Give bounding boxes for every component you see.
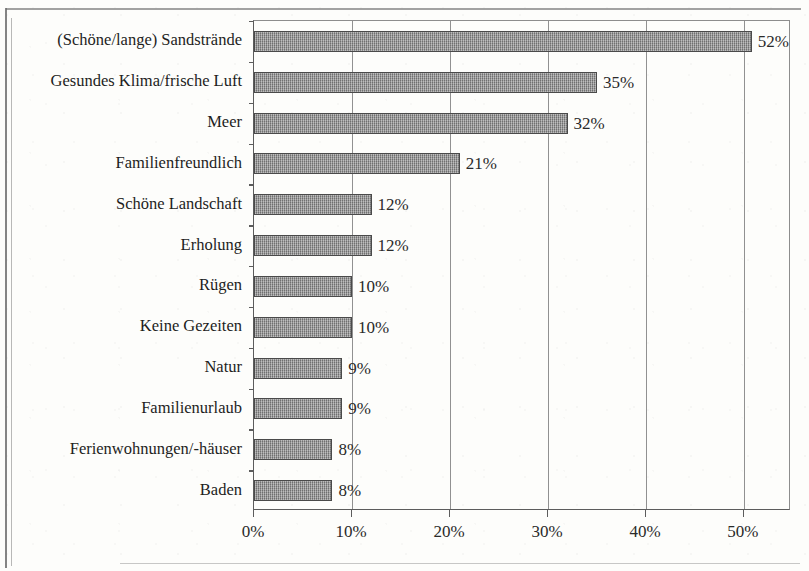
bar-series: 52%35%32%21%12%12%10%10%9%9%8%8% [254,21,789,509]
bar-row: 12% [254,193,789,217]
bar-row: 10% [254,315,789,339]
bar-value-label: 8% [338,441,361,458]
category-tick [249,389,254,390]
category-label: Schöne Landschaft [116,196,242,213]
bar-value-label: 52% [758,33,789,50]
category-label: Rügen [199,277,242,294]
x-tick-40% [645,510,646,517]
category-label: Familienurlaub [141,400,242,417]
bar-row: 8% [254,479,789,503]
bar-value-label: 21% [466,155,497,172]
bar-row: 52% [254,29,789,53]
bar[interactable] [254,439,332,460]
category-tick [249,144,254,145]
bar-row: 9% [254,397,789,421]
x-tick-label-10%: 10% [335,523,366,540]
bar[interactable] [254,194,372,215]
bar-value-label: 32% [574,115,605,132]
category-label: Familienfreundlich [116,155,242,172]
x-tick-20% [449,510,450,517]
category-axis-labels: (Schöne/lange) SandsträndeGesundes Klima… [0,20,248,510]
bar-row: 35% [254,70,789,94]
category-label: Ferienwohnungen/-häuser [70,441,242,458]
bar-row: 12% [254,234,789,258]
bar-row: 9% [254,356,789,380]
bar[interactable] [254,72,597,93]
bar[interactable] [254,153,460,174]
category-label: Natur [204,359,242,376]
category-tick [249,62,254,63]
bar[interactable] [254,31,752,52]
bar-value-label: 35% [603,74,634,91]
category-tick [249,266,254,267]
category-tick [249,470,254,471]
bar-value-label: 10% [358,319,389,336]
bar-value-label: 9% [348,400,371,417]
bar-row: 10% [254,274,789,298]
category-label: Erholung [181,236,242,253]
category-label: Baden [200,481,242,498]
bar-row: 8% [254,438,789,462]
bar[interactable] [254,480,332,501]
x-tick-label-50%: 50% [727,523,758,540]
x-tick-label-20%: 20% [433,523,464,540]
category-tick [249,103,254,104]
x-tick-50% [743,510,744,517]
bar[interactable] [254,113,568,134]
bar[interactable] [254,317,352,338]
category-tick [249,21,254,22]
bar-value-label: 9% [348,360,371,377]
x-axis-tick-labels: 0%10%20%30%40%50% [253,523,809,549]
category-tick [249,184,254,185]
x-tick-30% [547,510,548,517]
bar[interactable] [254,358,342,379]
category-label: Meer [207,114,242,131]
x-tick-10% [351,510,352,517]
bar-value-label: 12% [378,237,409,254]
x-tick-label-40%: 40% [629,523,660,540]
bar-row: 21% [254,152,789,176]
horizontal-bar-chart: (Schöne/lange) SandsträndeGesundes Klima… [0,0,809,571]
category-tick [249,429,254,430]
x-tick-label-0%: 0% [242,523,265,540]
bar[interactable] [254,235,372,256]
plot-area: 52%35%32%21%12%12%10%10%9%9%8%8% [253,20,790,510]
bar-row: 32% [254,111,789,135]
x-tick-0% [253,510,254,517]
category-tick [249,307,254,308]
category-label: Keine Gezeiten [140,318,242,335]
category-tick [249,225,254,226]
bar-value-label: 10% [358,278,389,295]
x-axis-tick-marks [253,510,790,518]
bar-value-label: 12% [378,196,409,213]
category-tick [249,348,254,349]
x-tick-label-30%: 30% [531,523,562,540]
bar[interactable] [254,276,352,297]
category-label: Gesundes Klima/frische Luft [50,73,242,90]
category-label: (Schöne/lange) Sandstrände [57,32,242,49]
bar[interactable] [254,398,342,419]
bar-value-label: 8% [338,482,361,499]
